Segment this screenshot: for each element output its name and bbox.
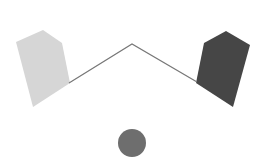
- right-pentagon-shape: [196, 31, 250, 107]
- left-pentagon-shape: [16, 30, 70, 107]
- connector-line: [69, 44, 197, 83]
- diagram-canvas: [0, 0, 273, 164]
- circle-shape: [118, 129, 146, 157]
